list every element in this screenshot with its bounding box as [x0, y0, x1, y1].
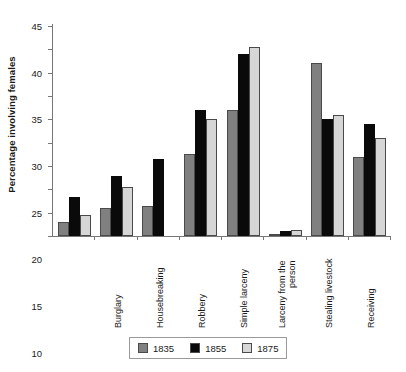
x-axis-label: All offences: [369, 240, 406, 328]
bar: [333, 115, 344, 236]
bar: [291, 230, 302, 236]
y-tick-label: 25: [31, 207, 42, 218]
bar: [80, 215, 91, 236]
bar-chart: Percentage involving females 05101520253…: [0, 0, 406, 372]
bar: [111, 176, 122, 236]
bar: [69, 197, 80, 236]
bar: [353, 157, 364, 236]
bar-group: [227, 26, 260, 236]
bar: [269, 234, 280, 236]
bar: [206, 119, 217, 236]
y-tick: 40: [48, 49, 52, 50]
bar-group: [142, 26, 175, 236]
y-tick-label: 10: [31, 347, 42, 358]
legend-label: 1875: [257, 343, 278, 354]
legend-item: 1835: [138, 343, 174, 354]
y-tick-label: 35: [31, 114, 42, 125]
bar: [227, 110, 238, 236]
bar: [122, 187, 133, 236]
bar-group: [269, 26, 302, 236]
bar: [184, 154, 195, 236]
legend-swatch: [138, 343, 148, 353]
x-axis-labels: BurglaryHousebreakingRobberySimple larce…: [52, 240, 390, 328]
bar-group: [311, 26, 344, 236]
y-tick: 45: [48, 26, 52, 27]
bar-group: [353, 26, 386, 236]
y-tick: 20: [48, 143, 52, 144]
bar: [142, 206, 153, 236]
bar: [153, 159, 164, 236]
bar: [375, 138, 386, 236]
bar: [100, 208, 111, 236]
legend: 183518551875: [129, 337, 287, 359]
y-axis-title-text: Percentage involving females: [6, 56, 17, 192]
y-tick-label: 45: [31, 21, 42, 32]
plot-area: 051015202530354045: [52, 26, 390, 236]
bar-group: [184, 26, 217, 236]
y-tick: 25: [48, 119, 52, 120]
legend-label: 1855: [205, 343, 226, 354]
y-tick: 0: [48, 236, 52, 237]
y-tick-label: 20: [31, 254, 42, 265]
y-tick: 35: [48, 73, 52, 74]
legend-item: 1855: [190, 343, 226, 354]
y-tick: 30: [48, 96, 52, 97]
y-axis-line: [52, 24, 53, 236]
legend-label: 1835: [153, 343, 174, 354]
legend-swatch: [190, 343, 200, 353]
y-axis-title: Percentage involving females: [2, 14, 20, 234]
y-tick-label: 40: [31, 67, 42, 78]
y-tick: 15: [48, 166, 52, 167]
y-tick-label: 15: [31, 301, 42, 312]
bar: [58, 222, 69, 236]
bar: [280, 231, 291, 236]
bar: [195, 110, 206, 236]
bar-group: [100, 26, 133, 236]
bar: [311, 63, 322, 236]
y-tick-label: 30: [31, 161, 42, 172]
bar: [249, 47, 260, 236]
bar: [238, 54, 249, 236]
legend-swatch: [242, 343, 252, 353]
bar: [322, 119, 333, 236]
y-tick: 5: [48, 213, 52, 214]
legend-item: 1875: [242, 343, 278, 354]
bar: [364, 124, 375, 236]
y-tick: 10: [48, 189, 52, 190]
bar-group: [58, 26, 91, 236]
